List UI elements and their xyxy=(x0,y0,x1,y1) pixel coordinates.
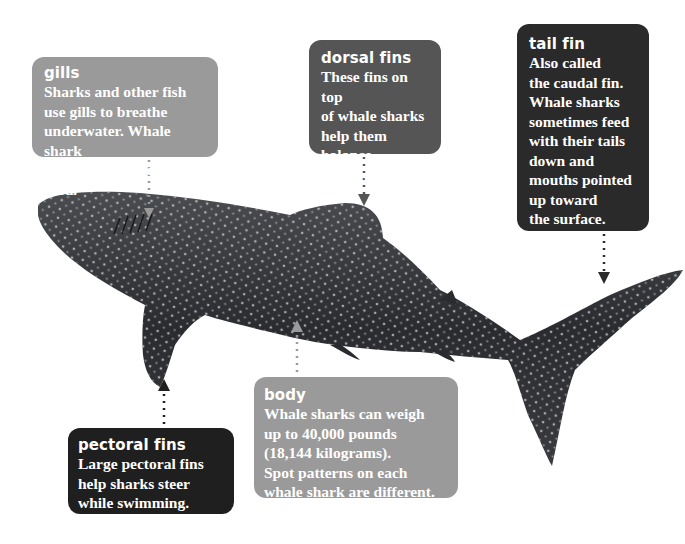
label-title: dorsal fins xyxy=(321,50,431,67)
label-text: Sharks and other fish use gills to breat… xyxy=(44,82,208,199)
label-title: gills xyxy=(44,65,208,82)
label-title: pectoral fins xyxy=(78,437,226,454)
label-dorsal-fins: dorsal fins These fins on top of whale s… xyxy=(309,40,441,154)
label-text: These fins on top of whale sharks help t… xyxy=(321,67,431,184)
label-title: tail fin xyxy=(529,36,641,53)
label-tail-fin: tail fin Also called the caudal fin. Wha… xyxy=(517,24,649,231)
label-text: Also called the caudal fin. Whale sharks… xyxy=(529,53,641,229)
label-text: Large pectoral fins help sharks steer wh… xyxy=(78,454,226,513)
connector-tail xyxy=(598,234,610,284)
label-gills: gills Sharks and other fish use gills to… xyxy=(32,57,218,157)
label-text: Whale sharks can weigh up to 40,000 poun… xyxy=(264,404,450,502)
label-title: body xyxy=(264,387,450,404)
label-pectoral-fins: pectoral fins Large pectoral fins help s… xyxy=(68,428,234,514)
label-body: body Whale sharks can weigh up to 40,000… xyxy=(254,377,458,498)
